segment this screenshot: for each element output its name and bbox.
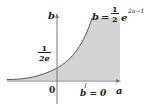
y-intercept-numerator: 1 (38, 44, 51, 52)
equation-coefficient: 1 2 (111, 5, 119, 23)
b-axis-arrow-icon (55, 13, 59, 18)
coef-denominator: 2 (111, 13, 119, 23)
equation-exponent: 2a−1 (128, 8, 144, 14)
y-intercept-label: 1 2e (38, 44, 51, 62)
coef-numerator: 1 (111, 5, 119, 13)
equation-base: e (121, 13, 127, 23)
y-axis-label: b (48, 11, 55, 21)
shaded-region (7, 18, 120, 80)
equation-equals: = (101, 12, 109, 22)
equation-lhs: b (92, 12, 99, 22)
y-intercept-denominator: 2e (38, 52, 51, 62)
x-axis-label: a (116, 86, 122, 96)
b-zero-label: b = 0 (80, 89, 106, 98)
diagram: b a 0 b = 0 1 2e b = 1 2 e 2a−1 (0, 0, 146, 112)
origin-label: 0 (49, 86, 55, 95)
